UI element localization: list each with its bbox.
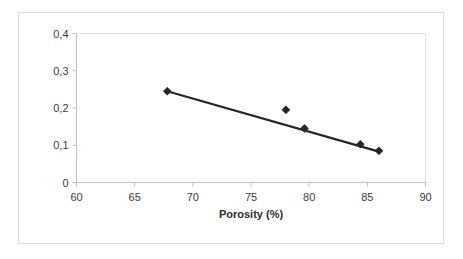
x-axis-tick-label: 65 bbox=[115, 191, 155, 203]
y-axis-tick-label: 0 bbox=[35, 177, 69, 189]
chart-figure: 00,10,20,30,460657075808590 Thermal cond… bbox=[0, 0, 463, 259]
data-point-marker bbox=[375, 147, 383, 155]
x-axis-title: Porosity (%) bbox=[76, 208, 426, 220]
data-point-marker bbox=[282, 106, 290, 114]
x-axis-tick-label: 70 bbox=[173, 191, 213, 203]
data-point-marker bbox=[163, 87, 171, 95]
y-axis-tick-label: 0,4 bbox=[35, 28, 69, 40]
x-axis-tick-label: 85 bbox=[347, 191, 387, 203]
y-axis-tick-label: 0,1 bbox=[35, 139, 69, 151]
x-axis-tick-label: 90 bbox=[406, 191, 446, 203]
y-axis-tick-label: 0,2 bbox=[35, 102, 69, 114]
plot-area bbox=[0, 0, 463, 259]
x-axis-tick-label: 80 bbox=[289, 191, 329, 203]
x-axis-tick-label: 75 bbox=[231, 191, 271, 203]
x-axis-tick-label: 60 bbox=[57, 191, 97, 203]
y-axis-tick-label: 0,3 bbox=[35, 65, 69, 77]
trend-line bbox=[167, 91, 379, 151]
